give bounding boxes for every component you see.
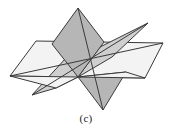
figure-caption: (c) [0, 112, 172, 124]
figure-container: (c) [0, 0, 172, 135]
